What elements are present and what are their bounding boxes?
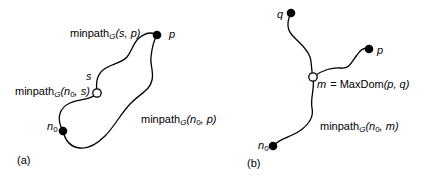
minpath-figure: minpathG(s, p) minpathG(n0, s) minpathG(… [0, 0, 421, 177]
node-n0-dot-b [269, 142, 278, 151]
node-s-circle [93, 89, 101, 97]
edge-m-to-p [313, 48, 369, 77]
node-p-dot-b [365, 45, 374, 54]
node-s-label: s [86, 70, 92, 82]
label-minpath-n0-m: minpathG(n0, m) [320, 120, 399, 134]
panel-a: minpathG(s, p) minpathG(n0, s) minpathG(… [15, 27, 217, 166]
edge-n0-to-s [59, 93, 97, 131]
node-p-label-b: p [376, 44, 383, 56]
node-n0-dot [59, 127, 68, 136]
label-minpath-n0-s: minpathG(n0, s) [15, 85, 90, 99]
edge-m-to-n0 [273, 77, 313, 146]
panel-b: q p m= MaxDom(p, q) minpathG(n0, m) n0 (… [247, 8, 410, 169]
node-n0-label-b: n0 [258, 139, 269, 153]
node-m-circle [309, 73, 317, 81]
node-p-label: p [168, 28, 175, 40]
node-q-label: q [277, 8, 284, 20]
node-q-dot [287, 9, 296, 18]
node-n0-label: n0 [47, 120, 58, 134]
label-minpath-s-p: minpathG(s, p) [70, 27, 141, 41]
panel-b-caption: (b) [247, 157, 260, 169]
panel-a-caption: (a) [17, 154, 30, 166]
label-m-maxdom: m= MaxDom(p, q) [317, 78, 410, 90]
edge-s-to-p [97, 33, 157, 93]
node-p-dot [153, 31, 162, 40]
label-minpath-n0-p: minpathG(n0, p) [141, 113, 217, 127]
edge-q-to-m [288, 13, 313, 77]
